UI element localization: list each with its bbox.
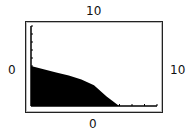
plot-area [0, 0, 193, 134]
area-series [31, 66, 157, 106]
